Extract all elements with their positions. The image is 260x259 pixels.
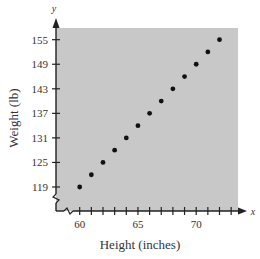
x-tick-label: 65 xyxy=(132,218,144,230)
y-axis-arrow-icon xyxy=(53,18,60,28)
data-point xyxy=(194,62,199,67)
y-tick-label: 131 xyxy=(32,132,49,144)
y-axis: 119125131137143149155 xyxy=(32,18,61,211)
data-point xyxy=(136,123,141,128)
x-tick-label: 70 xyxy=(191,218,203,230)
x-axis-variable: x xyxy=(250,206,256,217)
data-point xyxy=(182,74,187,79)
y-tick-label: 137 xyxy=(32,107,49,119)
y-tick-label: 125 xyxy=(32,156,49,168)
data-point xyxy=(124,136,129,141)
data-point xyxy=(101,160,106,165)
x-axis: 606570 xyxy=(56,207,247,230)
y-axis-title: Weight (lb) xyxy=(6,88,21,147)
y-tick-label: 149 xyxy=(32,58,49,70)
x-axis-arrow-icon xyxy=(238,208,247,215)
y-tick-label: 119 xyxy=(32,181,49,193)
x-axis-title: Height (inches) xyxy=(100,237,181,252)
plot-background xyxy=(56,28,238,211)
y-axis-variable: y xyxy=(51,3,57,14)
data-point xyxy=(171,86,176,91)
y-tick-label: 155 xyxy=(32,34,49,46)
data-point xyxy=(77,185,82,190)
data-point xyxy=(217,37,222,42)
data-point xyxy=(159,99,164,104)
x-tick-label: 60 xyxy=(74,218,86,230)
data-point xyxy=(205,50,210,55)
data-point xyxy=(147,111,152,116)
y-tick-label: 143 xyxy=(32,83,49,95)
scatter-chart: 119125131137143149155 606570 y x Weight … xyxy=(0,0,260,259)
data-point xyxy=(89,172,94,177)
data-point xyxy=(112,148,117,153)
